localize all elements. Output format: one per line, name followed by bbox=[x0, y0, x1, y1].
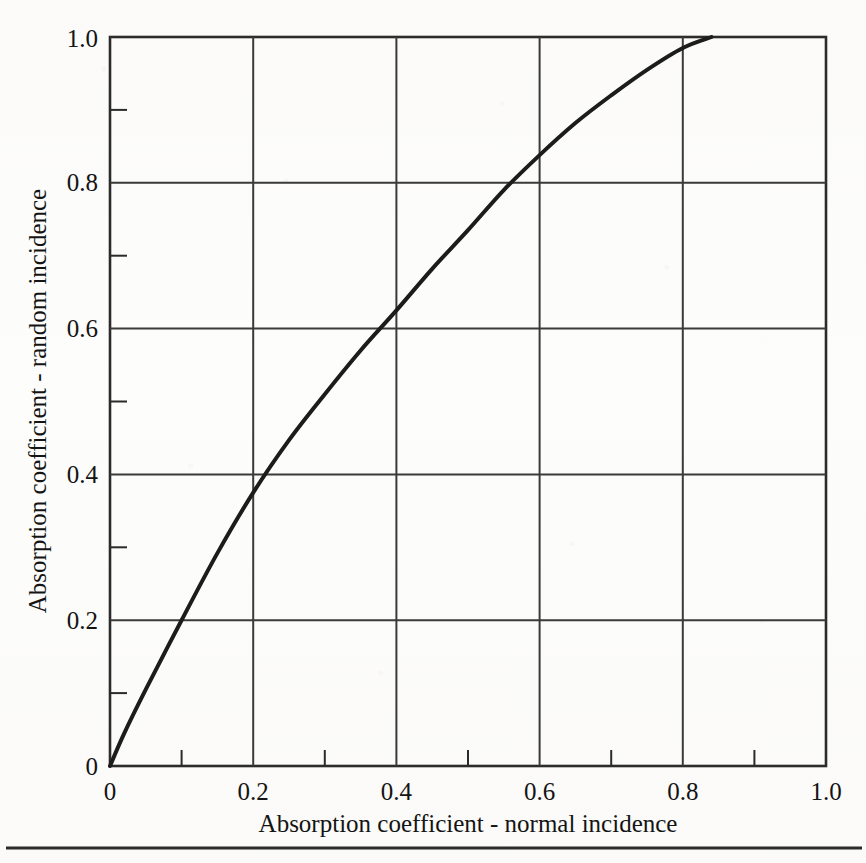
plot-border bbox=[110, 37, 826, 766]
x-tick-label-0.2: 0.2 bbox=[238, 778, 269, 805]
x-tick-label-0: 0 bbox=[104, 778, 117, 805]
plot-frame bbox=[110, 37, 826, 766]
y-tick-label-0: 0 bbox=[86, 753, 99, 780]
data-series-line bbox=[110, 37, 711, 766]
y-tick-label-0.4: 0.4 bbox=[67, 461, 99, 488]
figure-page: 0 0.2 0.4 0.6 0.8 1.0 0 0.2 0.4 0.6 0.8 … bbox=[0, 0, 866, 863]
grid-lines bbox=[110, 37, 826, 766]
x-tick-label-0.4: 0.4 bbox=[381, 778, 413, 805]
x-tick-label-0.6: 0.6 bbox=[524, 778, 555, 805]
x-tick-label-0.8: 0.8 bbox=[667, 778, 698, 805]
x-tick-label-1.0: 1.0 bbox=[810, 778, 841, 805]
y-tick-label-0.8: 0.8 bbox=[67, 169, 98, 196]
y-axis-title: Absorption coefficient - random incidenc… bbox=[24, 189, 51, 613]
y-tick-label-0.6: 0.6 bbox=[67, 315, 98, 342]
y-tick-label-0.2: 0.2 bbox=[67, 607, 98, 634]
y-axis-tick-labels: 0 0.2 0.4 0.6 0.8 1.0 bbox=[67, 25, 99, 780]
x-axis-tick-labels: 0 0.2 0.4 0.6 0.8 1.0 bbox=[104, 778, 842, 805]
x-axis-title: Absorption coefficient - normal incidenc… bbox=[259, 810, 678, 837]
y-tick-label-1.0: 1.0 bbox=[67, 25, 98, 52]
minor-ticks bbox=[110, 110, 754, 766]
chart-canvas: 0 0.2 0.4 0.6 0.8 1.0 0 0.2 0.4 0.6 0.8 … bbox=[0, 0, 866, 863]
